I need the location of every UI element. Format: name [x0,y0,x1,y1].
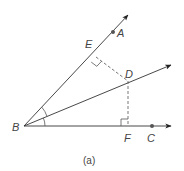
label-f: F [124,132,132,144]
right-angle-mark-e [91,61,101,66]
angle-arc-dbc [43,118,45,126]
label-d: D [125,68,133,80]
point-c-dot [150,124,154,128]
label-e: E [85,38,93,50]
ray-bd [24,65,171,126]
point-a-dot [111,30,115,34]
right-angle-mark-f [121,119,128,126]
angle-arc-abd [42,107,47,116]
dashed-segment-de [96,57,128,81]
label-a: A [116,27,124,39]
label-b: B [12,121,19,133]
figure-caption: (a) [83,155,95,166]
angle-bisector-diagram: A B C D E F (a) [0,0,184,171]
label-c: C [147,132,155,144]
